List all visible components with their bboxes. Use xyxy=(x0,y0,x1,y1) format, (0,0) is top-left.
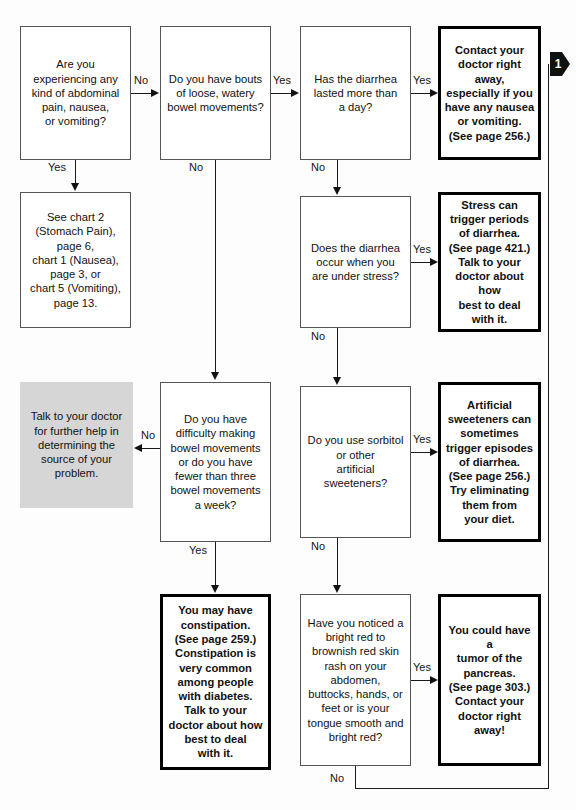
node-question-abdominal-pain[interactable]: Are you experiencing any kind of abdomin… xyxy=(20,26,131,160)
node-answer-tumor[interactable]: You could have a tumor of the pancreas. … xyxy=(438,594,541,766)
arrowhead-rash-to-tumor xyxy=(430,676,438,684)
node-question-loose-bowel[interactable]: Do you have bouts of loose, watery bowel… xyxy=(160,26,271,160)
node-answer-stress[interactable]: Stress can trigger periods of diarrhea. … xyxy=(438,192,541,332)
edge-loose-to-constipation xyxy=(215,160,216,373)
edge-label-rash-no: No xyxy=(330,772,344,784)
edge-label-day-yes: Yes xyxy=(413,74,431,86)
edge-label-rash-yes: Yes xyxy=(413,661,431,673)
edge-sorbitol-to-sweeteners xyxy=(411,452,431,453)
edge-abdominal-to-reference xyxy=(75,160,76,184)
node-answer-sweeteners[interactable]: Artificial sweeteners can sometimes trig… xyxy=(438,382,541,542)
edge-label-stress-no: No xyxy=(311,330,325,342)
flowchart-diagram: Are you experiencing any kind of abdomin… xyxy=(0,0,576,810)
edge-constipation-to-answer xyxy=(215,542,216,586)
edge-label-sorbitol-yes: Yes xyxy=(413,433,431,445)
edge-label-loose-yes: Yes xyxy=(273,74,291,86)
edge-stress-to-sorbitol xyxy=(337,328,338,378)
arrowhead-abdominal-to-loose xyxy=(151,89,159,97)
edge-label-loose-no: No xyxy=(189,161,203,173)
edge-label-stress-yes: Yes xyxy=(413,243,431,255)
node-question-constipation[interactable]: Do you have difficulty making bowel move… xyxy=(160,382,271,542)
node-question-rash[interactable]: Have you noticed a bright red to brownis… xyxy=(300,594,411,766)
edge-rash-no-down xyxy=(355,766,356,788)
connector-marker-label: 1 xyxy=(555,57,562,71)
edge-sorbitol-to-rash xyxy=(337,538,338,586)
arrowhead-constipation-to-answer xyxy=(211,585,219,593)
arrowhead-day-to-stress xyxy=(333,187,341,195)
node-question-stress[interactable]: Does the diarrhea occur when you are und… xyxy=(300,196,411,328)
arrowhead-abdominal-to-reference xyxy=(71,183,79,191)
node-answer-talk-to-doctor[interactable]: Talk to your doctor for further help in … xyxy=(20,382,133,508)
edge-loose-to-day xyxy=(271,93,292,94)
edge-label-abdominal-yes: Yes xyxy=(48,161,66,173)
arrowhead-loose-to-constipation xyxy=(211,372,219,380)
arrowhead-day-to-contact xyxy=(430,89,438,97)
edge-day-to-contact xyxy=(411,93,431,94)
connector-marker-1: 1 xyxy=(550,51,570,77)
edge-stress-to-answer xyxy=(411,262,431,263)
edge-rash-to-tumor xyxy=(411,680,431,681)
node-reference-other-charts[interactable]: See chart 2 (Stomach Pain), page 6, char… xyxy=(20,192,131,328)
arrowhead-stress-to-sorbitol xyxy=(333,377,341,385)
arrowhead-stress-to-answer xyxy=(430,258,438,266)
edge-label-day-no: No xyxy=(311,161,325,173)
edge-day-to-stress xyxy=(337,160,338,188)
edge-label-constipation-yes: Yes xyxy=(189,544,207,556)
edge-label-abdominal-no: No xyxy=(134,74,148,86)
arrowhead-loose-to-day xyxy=(291,89,299,97)
edge-rash-no-across xyxy=(355,788,549,789)
node-question-diarrhea-day[interactable]: Has the diarrhea lasted more than a day? xyxy=(300,26,411,160)
node-question-sorbitol[interactable]: Do you use sorbitol or other artificial … xyxy=(300,386,411,538)
node-answer-constipation[interactable]: You may have constipation. (See page 259… xyxy=(160,594,271,770)
edge-abdominal-to-loose xyxy=(131,93,152,94)
arrowhead-constipation-to-talkdoctor xyxy=(134,444,142,452)
edge-right-rail-up xyxy=(548,64,549,788)
node-answer-contact-doctor[interactable]: Contact your doctor right away, especial… xyxy=(438,26,541,160)
edge-label-constipation-no: No xyxy=(141,429,155,441)
arrowhead-sorbitol-to-rash xyxy=(333,585,341,593)
edge-label-sorbitol-no: No xyxy=(311,540,325,552)
edge-constipation-to-talkdoctor xyxy=(142,448,160,449)
arrowhead-sorbitol-to-sweeteners xyxy=(430,448,438,456)
